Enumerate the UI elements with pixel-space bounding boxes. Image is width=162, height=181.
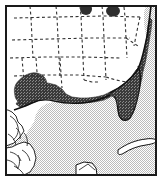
map-canvas xyxy=(0,0,162,181)
distribution-map-figure xyxy=(0,0,162,181)
landmass-mexico-south xyxy=(6,142,36,175)
range-patch-great-lakes-patch-east xyxy=(106,6,120,17)
